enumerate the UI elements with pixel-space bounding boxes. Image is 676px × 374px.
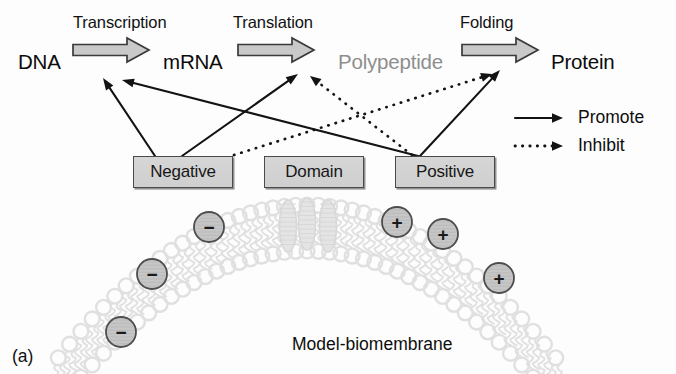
figure-caption: (a) bbox=[12, 348, 33, 366]
legend-label-inhibit: Inhibit bbox=[578, 137, 625, 155]
figure-canvas: DNAmRNAPolypeptideProtein TranscriptionT… bbox=[0, 0, 676, 374]
membrane-label: Model-biomembrane bbox=[292, 336, 453, 354]
legend-arrow-inhibit bbox=[515, 141, 563, 151]
legend-arrows bbox=[0, 0, 676, 374]
legend-arrow-promote bbox=[515, 113, 563, 123]
legend-label-promote: Promote bbox=[578, 109, 644, 127]
